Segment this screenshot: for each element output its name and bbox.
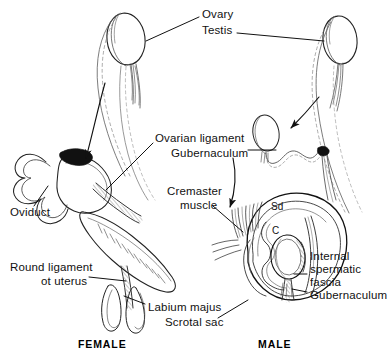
male-descent-arrow-upper	[291, 97, 319, 128]
label-labium-majus: Labium majus	[148, 301, 221, 315]
label-scrotal-sac: Scrotal sac	[165, 316, 224, 330]
male-descent-arrow-lower	[230, 158, 235, 207]
mark-sd: Sd	[271, 201, 283, 212]
label-gubernaculum-upper: Gubernaculum	[171, 147, 248, 161]
label-internal-spermatic-line1: Internal	[310, 250, 350, 264]
female-descent-arrow	[86, 83, 105, 158]
mark-c: C	[272, 225, 279, 236]
caption-female: FEMALE	[78, 338, 127, 350]
label-ovarian-ligament: Ovarian ligament	[155, 132, 244, 146]
label-ovary: Ovary	[202, 8, 233, 22]
label-round-ligament-line2: ot uterus	[41, 275, 87, 289]
label-oviduct: Oviduct	[10, 206, 50, 220]
gonad-top-center-drawing	[97, 11, 155, 200]
label-round-ligament-line1: Round ligament	[10, 261, 93, 275]
label-cremaster-muscle-line1: Cremaster	[167, 185, 222, 199]
label-internal-spermatic-line3: fascia	[310, 276, 341, 290]
caption-male: MALE	[258, 338, 291, 350]
label-cremaster-muscle-line2: muscle	[180, 199, 217, 213]
gonad-top-right-drawing	[312, 14, 362, 213]
anatomy-figure: Ovary Testis Ovarian ligament Gubernacul…	[0, 0, 392, 362]
label-internal-spermatic-line2: spermatic	[310, 263, 361, 277]
label-testis: Testis	[202, 24, 232, 38]
cremaster-fibers	[232, 202, 262, 238]
label-gubernaculum-lower: Gubernaculum	[310, 289, 387, 303]
